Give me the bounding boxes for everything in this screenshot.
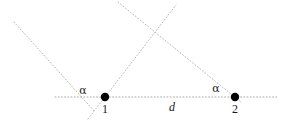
ray-upper-left-to-point-1 — [14, 22, 95, 112]
distance-label-d: d — [169, 101, 175, 113]
geometry-figure: 1 2 α α d — [0, 0, 291, 128]
point-marker-2 — [231, 93, 239, 101]
point-label-2: 2 — [232, 103, 238, 115]
point-marker-1 — [101, 93, 109, 101]
angle-label-alpha-right: α — [212, 83, 219, 94]
point-label-1: 1 — [102, 103, 108, 115]
figure-canvas — [0, 0, 291, 128]
ray-top-center-to-point-2 — [118, 2, 242, 103]
angle-label-alpha-left: α — [79, 85, 86, 96]
